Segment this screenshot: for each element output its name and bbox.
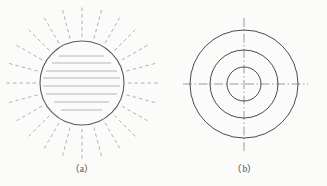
figure-b-drawing — [163, 0, 327, 160]
figure-panel: （a） （b） — [0, 0, 327, 186]
radiation-ray — [126, 63, 155, 71]
radiation-ray — [28, 116, 49, 137]
radiation-ray — [105, 123, 120, 149]
figure-b-concentric-circles: （b） — [163, 0, 327, 186]
radiation-ray — [94, 10, 102, 39]
centerline-group — [183, 18, 308, 151]
hatch-group — [43, 56, 120, 110]
radiation-ray — [115, 116, 136, 137]
figure-b-caption: （b） — [163, 161, 327, 175]
figure-a-drawing — [0, 0, 164, 160]
radiation-ray — [16, 45, 42, 60]
radiation-ray — [115, 29, 136, 50]
radiation-ray — [126, 95, 155, 103]
radiation-ray — [9, 95, 38, 103]
outer-circle-outline — [40, 41, 124, 125]
ray-group — [6, 7, 158, 159]
figure-a-radiating-circle: （a） — [0, 0, 164, 186]
radiation-ray — [9, 63, 38, 71]
radiation-ray — [44, 123, 59, 149]
radiation-ray — [122, 45, 148, 60]
radiation-ray — [28, 29, 49, 50]
radiation-ray — [44, 17, 59, 43]
radiation-ray — [16, 106, 42, 121]
radiation-ray — [62, 10, 70, 39]
radiation-ray — [94, 127, 102, 156]
figure-a-caption: （a） — [0, 161, 164, 175]
radiation-ray — [62, 127, 70, 156]
radiation-ray — [105, 17, 120, 43]
radiation-ray — [122, 106, 148, 121]
